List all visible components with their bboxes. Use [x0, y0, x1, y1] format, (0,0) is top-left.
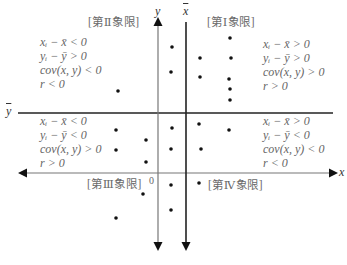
condition-y: yᵢ − ȳ < 0: [40, 128, 101, 142]
origin-label: 0: [149, 174, 154, 188]
condition-r: r > 0: [40, 156, 101, 170]
condition-y: yᵢ − ȳ > 0: [40, 49, 101, 63]
condition-cov: cov(x, y) > 0: [263, 65, 324, 79]
quadrant-1-conditions: xᵢ − x̄ > 0 yᵢ − ȳ > 0 cov(x, y) > 0 r >…: [263, 37, 324, 93]
quadrant-4-label: [第Ⅳ象限]: [208, 178, 263, 192]
quadrant-3-conditions: xᵢ − x̄ < 0 yᵢ − ȳ < 0 cov(x, y) > 0 r >…: [40, 114, 101, 170]
condition-cov: cov(x, y) < 0: [40, 63, 101, 77]
condition-x: xᵢ − x̄ > 0: [263, 37, 324, 51]
y-mean-label: y: [6, 104, 11, 118]
quadrant-4-conditions: xᵢ − x̄ > 0 yᵢ − ȳ < 0 cov(x, y) < 0 r <…: [263, 114, 324, 170]
x-axis-left-arrow-icon: [18, 169, 27, 178]
x-axis-label: x: [339, 165, 344, 179]
quadrant-2-label: [第Ⅱ象限]: [88, 15, 139, 29]
condition-x: xᵢ − x̄ > 0: [263, 114, 324, 128]
x-axis-right-arrow-icon: [329, 169, 338, 178]
data-points: [114, 36, 233, 220]
y-axis-label: y: [155, 4, 160, 18]
condition-cov: cov(x, y) > 0: [40, 142, 101, 156]
condition-y: yᵢ − ȳ > 0: [263, 51, 324, 65]
quadrant-3-label: [第Ⅲ象限]: [87, 177, 142, 191]
condition-cov: cov(x, y) < 0: [263, 142, 324, 156]
x-mean-down-arrow-icon: [182, 242, 191, 251]
condition-r: r > 0: [263, 79, 324, 93]
y-axis-down-arrow-icon: [154, 242, 163, 251]
condition-x: xᵢ − x̄ < 0: [40, 35, 101, 49]
condition-y: yᵢ − ȳ < 0: [263, 128, 324, 142]
quadrant-1-label: [第Ⅰ象限]: [207, 15, 255, 29]
condition-x: xᵢ − x̄ < 0: [40, 114, 101, 128]
condition-r: r < 0: [263, 156, 324, 170]
y-axis-up-arrow-icon: [154, 17, 163, 26]
quadrant-2-conditions: xᵢ − x̄ < 0 yᵢ − ȳ > 0 cov(x, y) < 0 r <…: [40, 35, 101, 91]
condition-r: r < 0: [40, 77, 101, 91]
x-mean-label: x: [183, 4, 188, 18]
